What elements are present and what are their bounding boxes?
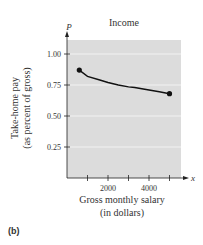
x-axis-label-line1: Gross monthly salary bbox=[79, 194, 165, 205]
y-axis-label-line1: Take-home pay bbox=[9, 77, 20, 139]
income-chart: 0.250.500.751.00 20004000 P x Income Gro… bbox=[0, 0, 203, 245]
y-tick-label: 0.50 bbox=[47, 112, 61, 121]
y-tick-label: 0.75 bbox=[47, 81, 61, 90]
x-tick-label: 2000 bbox=[100, 184, 116, 193]
x-axis-variable: x bbox=[190, 173, 195, 183]
endpoint-dot bbox=[77, 68, 82, 73]
y-axis-label-line2: (as percent of gross) bbox=[21, 67, 33, 148]
y-tick-label: 0.25 bbox=[47, 143, 61, 152]
chart-title: Income bbox=[109, 17, 140, 28]
x-tick-label: 4000 bbox=[141, 184, 157, 193]
plot-background bbox=[67, 40, 181, 178]
y-ticks: 0.250.500.751.00 bbox=[47, 50, 70, 152]
x-axis-arrow-icon bbox=[183, 176, 189, 180]
y-tick-label: 1.00 bbox=[47, 50, 61, 59]
y-axis-variable: P bbox=[65, 22, 72, 32]
endpoint-dot bbox=[167, 91, 172, 96]
panel-label: (b) bbox=[8, 226, 20, 236]
x-axis-label-line2: (in dollars) bbox=[100, 207, 144, 219]
